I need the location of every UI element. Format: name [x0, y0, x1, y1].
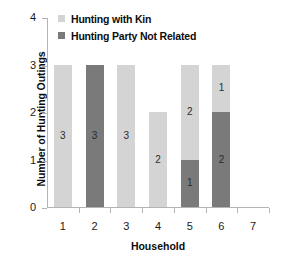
x-axis-tick: [269, 208, 270, 213]
legend-swatch-icon: [58, 15, 65, 22]
bar-segment-value-label: 3: [124, 131, 130, 141]
bar-segment-value-label: 2: [187, 107, 193, 117]
bar-segment: 2: [149, 112, 167, 207]
legend-item-label: Hunting with Kin: [71, 13, 151, 25]
x-axis-tick: [79, 208, 80, 213]
y-axis-tick: 3: [42, 66, 47, 67]
x-axis-tick-label: 6: [209, 220, 233, 232]
x-axis-tick: [110, 208, 111, 213]
y-axis-tick: 2: [42, 113, 47, 114]
y-axis-tick-label: 4: [30, 11, 36, 23]
x-axis-tick-label: 4: [146, 220, 170, 232]
x-axis-tick-label: 1: [51, 220, 75, 232]
bar-segment-value-label: 1: [219, 83, 225, 93]
x-axis-title: Household: [47, 240, 269, 252]
y-axis-tick: 0: [42, 208, 47, 209]
x-axis-tick-label: 2: [83, 220, 107, 232]
bar-stack: 2: [149, 112, 167, 207]
bar-segment: 3: [117, 65, 135, 208]
x-axis-tick-label: 5: [178, 220, 202, 232]
x-axis-tick-label: 3: [114, 220, 138, 232]
bar-segment-value-label: 3: [60, 131, 66, 141]
bar-segment: 3: [54, 65, 72, 208]
x-axis-tick: [237, 208, 238, 213]
bar-stack: 21: [212, 65, 230, 208]
bar-stack: 3: [86, 65, 104, 208]
bar-segment: 2: [181, 65, 199, 160]
x-axis-tick: [206, 208, 207, 213]
legend-item-hunting-party-not-related: Hunting Party Not Related: [58, 28, 196, 43]
y-axis-tick-label: 3: [30, 59, 36, 71]
y-axis-tick: 1: [42, 161, 47, 162]
x-axis-line: [47, 207, 269, 208]
x-axis-tick: [142, 208, 143, 213]
bar-segment-value-label: 1: [187, 178, 193, 188]
y-axis-title: Number of Hunting Outings: [35, 24, 47, 214]
bar-segment-value-label: 2: [219, 155, 225, 165]
bar-segment-value-label: 3: [92, 131, 98, 141]
x-axis-tick-label: 7: [241, 220, 265, 232]
stacked-bar-chart: Number of Hunting Outings 01234 1234567 …: [0, 0, 284, 268]
bar-segment: 1: [212, 65, 230, 113]
legend-item-hunting-with-kin: Hunting with Kin: [58, 11, 196, 26]
bar-segment-value-label: 2: [155, 155, 161, 165]
x-axis-tick: [174, 208, 175, 213]
bar-segment: 2: [212, 112, 230, 207]
bar-stack: 3: [54, 65, 72, 208]
y-axis-tick: 4: [42, 18, 47, 19]
y-axis-tick-label: 2: [30, 106, 36, 118]
bar-segment: 3: [86, 65, 104, 208]
bar-stack: 3: [117, 65, 135, 208]
legend-item-label: Hunting Party Not Related: [71, 30, 196, 42]
legend-swatch-icon: [58, 32, 65, 39]
chart-legend: Hunting with Kin Hunting Party Not Relat…: [58, 11, 196, 45]
y-axis-line: [47, 18, 48, 208]
y-axis-tick-label: 0: [30, 201, 36, 213]
bar-stack: 12: [181, 65, 199, 208]
plot-area: 01234 1234567 33321221: [47, 18, 269, 208]
y-axis-tick-label: 1: [30, 154, 36, 166]
bar-segment: 1: [181, 160, 199, 208]
